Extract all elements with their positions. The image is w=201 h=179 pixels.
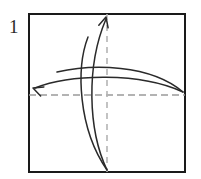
diagram-canvas: 1 — [0, 0, 201, 179]
origami-step-diagram: 1 — [0, 0, 201, 179]
step-number-label: 1 — [9, 16, 19, 37]
